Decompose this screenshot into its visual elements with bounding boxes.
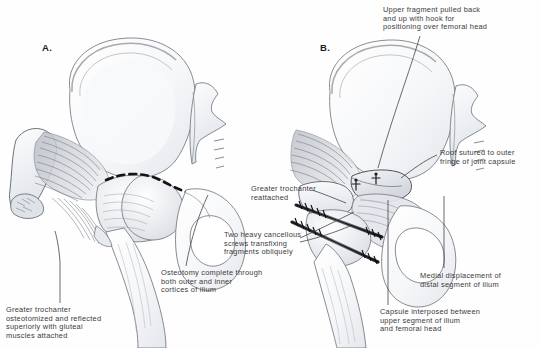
caption-medial-displacement: Medial displacement of distal segment of… [420,272,501,289]
caption-capsule-interposed: Capsule interposed between upper segment… [380,308,480,334]
caption-roof-sutured: Roof sutured to outer fringe of joint ca… [440,149,516,166]
panel-letter-b: B. [320,42,330,53]
caption-osteotomy-complete: Osteotomy complete through both outer an… [161,269,262,295]
caption-greater-trochanter-osteotomized: Greater trochanter osteotomized and refl… [6,306,101,340]
surgical-illustration-figure [0,0,541,348]
caption-greater-trochanter-reattached: Greater trochanter reattached [251,185,316,202]
panel-letter-a: A. [42,42,52,53]
caption-upper-fragment: Upper fragment pulled back and up with h… [383,6,487,32]
caption-two-screws: Two heavy cancellous screws transfixing … [224,231,301,257]
